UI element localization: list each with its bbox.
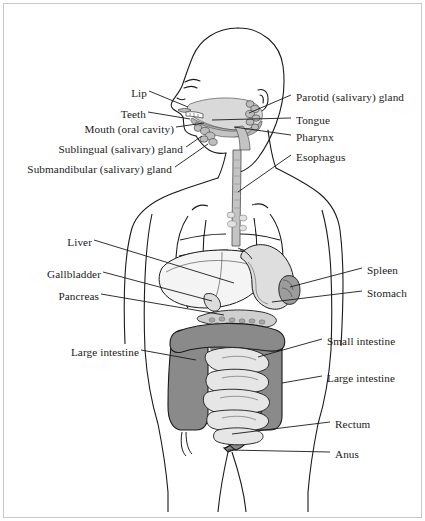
digestive-system-diagram: [0, 0, 425, 521]
label-teeth: Teeth: [0, 109, 146, 120]
label-pharynx: Pharynx: [296, 132, 334, 143]
label-gallbladder: Gallbladder: [0, 269, 101, 280]
label-tongue: Tongue: [296, 115, 330, 126]
oral-cavity-shading: [178, 98, 262, 150]
label-pancreas: Pancreas: [0, 291, 99, 302]
label-esophagus: Esophagus: [296, 152, 345, 163]
label-submandibular-salivary-gland: Submandibular (salivary) gland: [0, 164, 172, 175]
abdominal-organs: [159, 245, 300, 456]
label-sublingual-salivary-gland: Sublingual (salivary) gland: [0, 144, 183, 155]
label-spleen: Spleen: [367, 265, 398, 276]
label-rectum: Rectum: [335, 419, 370, 430]
esophagus: [227, 150, 247, 246]
label-large-intestine-left: Large intestine: [0, 347, 139, 358]
label-large-intestine-right: Large intestine: [327, 373, 395, 384]
label-lip: Lip: [0, 88, 147, 99]
label-mouth-oral-cavity: Mouth (oral cavity): [0, 124, 174, 135]
label-stomach: Stomach: [367, 288, 407, 299]
label-anus: Anus: [335, 449, 359, 460]
label-small-intestine: Small intestine: [327, 336, 395, 347]
label-liver: Liver: [0, 237, 92, 248]
label-parotid-salivary-gland: Parotid (salivary) gland: [296, 92, 404, 103]
